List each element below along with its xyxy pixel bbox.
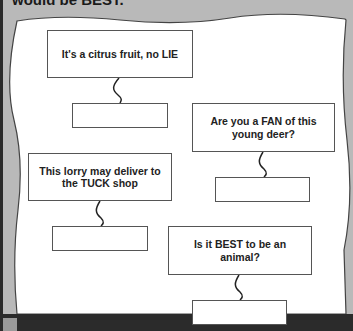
clue-text-1: It's a citrus fruit, no LIE xyxy=(62,48,178,60)
clue-box-3: This lorry may deliver to the TUCK shop xyxy=(28,153,172,201)
answer-box-2[interactable] xyxy=(215,177,310,202)
answer-box-3[interactable] xyxy=(52,226,148,251)
clue-text-2: Are you a FAN of this young deer? xyxy=(197,115,330,139)
bottom-strip-accent xyxy=(3,318,17,331)
clue-text-4: Is it BEST to be an animal? xyxy=(173,238,307,262)
answer-box-1[interactable] xyxy=(72,103,168,128)
clue-box-1: It's a citrus fruit, no LIE xyxy=(47,30,193,78)
clue-box-4: Is it BEST to be an animal? xyxy=(168,226,312,275)
clue-box-2: Are you a FAN of this young deer? xyxy=(192,103,335,152)
answer-box-4[interactable] xyxy=(192,300,287,325)
bottom-strip xyxy=(0,314,353,331)
clue-text-3: This lorry may deliver to the TUCK shop xyxy=(33,165,167,189)
